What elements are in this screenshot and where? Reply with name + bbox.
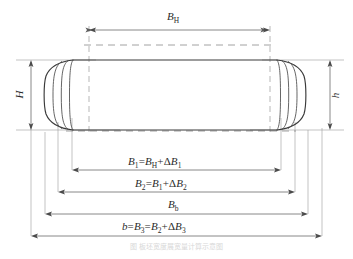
slab-outline xyxy=(44,60,306,130)
label-b-formula: b=B3=B2+ΔB3 xyxy=(122,221,186,232)
extension-lines xyxy=(16,60,344,236)
vertical-reference-lines xyxy=(89,26,270,136)
dimension-BH xyxy=(89,26,267,30)
slab-width-diagram: BH H h B1=BH+ΔB1 B2=B1+ΔB2 Bb b=B3=B2+ΔB… xyxy=(0,0,353,259)
label-H: H xyxy=(14,84,25,106)
center-lines xyxy=(66,45,296,131)
label-B1-formula: B1=BH+ΔB1 xyxy=(128,156,182,167)
label-BH: BH xyxy=(167,11,179,22)
bulge-contour-lines xyxy=(53,60,297,130)
label-Bb: Bb xyxy=(168,199,179,210)
label-h: h xyxy=(330,85,341,107)
label-B2-formula: B2=B1+ΔB2 xyxy=(135,178,187,189)
figure-caption: 图 板坯宽度展宽量计算示意图 xyxy=(0,241,353,251)
